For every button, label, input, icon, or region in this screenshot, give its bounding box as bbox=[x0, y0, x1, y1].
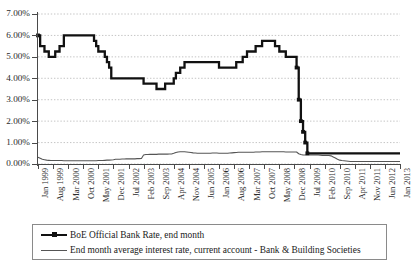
x-tick-label: Jul 2009 bbox=[313, 168, 322, 197]
legend-label-boe-rate: BoE Official Bank Rate, end month bbox=[70, 230, 204, 240]
x-tick-label: Jun 2012 bbox=[388, 168, 397, 198]
x-tick bbox=[129, 164, 130, 169]
x-tick bbox=[38, 164, 39, 169]
x-tick-label: Mar 2007 bbox=[253, 168, 262, 201]
x-tick-label: Sep 2010 bbox=[343, 168, 352, 199]
legend-item-boe-rate: BoE Official Bank Rate, end month bbox=[41, 228, 204, 242]
x-tick-label: Mar 2000 bbox=[72, 168, 81, 201]
x-tick-label: Dec 2001 bbox=[117, 168, 126, 200]
x-tick-label: Oct 2000 bbox=[87, 168, 96, 199]
x-tick bbox=[279, 164, 280, 169]
x-tick-label: May 2008 bbox=[283, 168, 292, 202]
x-tick-label: Nov 2004 bbox=[192, 168, 201, 201]
legend: BoE Official Bank Rate, end month End mo… bbox=[32, 224, 387, 260]
legend-key-thick-line-icon bbox=[41, 229, 67, 241]
x-tick-label: Jan 2006 bbox=[222, 168, 231, 198]
x-tick bbox=[98, 164, 99, 169]
x-tick bbox=[340, 164, 341, 169]
x-tick-label: Aug 2006 bbox=[237, 168, 246, 201]
x-tick-label: Apr 2011 bbox=[358, 168, 367, 200]
x-tick bbox=[370, 164, 371, 169]
legend-key-thin-line-icon bbox=[41, 244, 67, 256]
x-tick-label: Nov 2011 bbox=[373, 168, 382, 201]
x-tick bbox=[355, 164, 356, 169]
x-tick bbox=[310, 164, 311, 169]
x-tick bbox=[234, 164, 235, 169]
x-tick bbox=[219, 164, 220, 169]
x-tick-label: Dec 2008 bbox=[298, 168, 307, 200]
x-tick bbox=[189, 164, 190, 169]
x-tick bbox=[53, 164, 54, 169]
x-tick bbox=[264, 164, 265, 169]
x-tick bbox=[144, 164, 145, 169]
x-tick bbox=[249, 164, 250, 169]
x-tick-label: Sep 2003 bbox=[162, 168, 171, 199]
x-tick-label: Aug 1999 bbox=[56, 168, 65, 201]
x-tick bbox=[325, 164, 326, 169]
x-tick bbox=[159, 164, 160, 169]
x-tick-label: Oct 2007 bbox=[268, 168, 277, 199]
x-tick bbox=[83, 164, 84, 169]
x-tick bbox=[204, 164, 205, 169]
x-tick bbox=[400, 164, 401, 169]
interest-rate-chart: 0.00%1.00%2.00%3.00%4.00%5.00%6.00%7.00%… bbox=[0, 0, 414, 270]
x-tick bbox=[294, 164, 295, 169]
x-tick-label: Feb 2003 bbox=[147, 168, 156, 199]
x-tick bbox=[174, 164, 175, 169]
legend-item-current-account: End month average interest rate, current… bbox=[41, 243, 361, 257]
x-tick-label: Apr 2004 bbox=[177, 168, 186, 200]
x-tick bbox=[68, 164, 69, 169]
x-tick-label: Jan 2013 bbox=[403, 168, 412, 198]
legend-label-current-account: End month average interest rate, current… bbox=[70, 245, 361, 255]
x-tick-label: Jun 2005 bbox=[207, 168, 216, 198]
x-tick-label: Feb 2010 bbox=[328, 168, 337, 199]
x-tick-label: Jan 1999 bbox=[41, 168, 50, 198]
x-tick bbox=[113, 164, 114, 169]
x-tick-label: Jul 2002 bbox=[132, 168, 141, 197]
x-tick-label: May 2001 bbox=[102, 168, 111, 202]
x-tick bbox=[385, 164, 386, 169]
